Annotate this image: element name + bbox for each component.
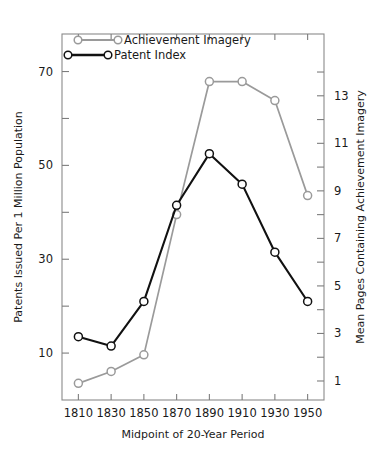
y2-tick-label: 1 (334, 374, 341, 388)
x-tick-label: 1910 (227, 406, 256, 420)
data-point-marker (140, 297, 148, 305)
legend-marker-end (114, 36, 122, 44)
data-point-marker (238, 78, 246, 86)
series-achievement-imagery (74, 78, 311, 388)
x-tick-label: 1830 (96, 406, 125, 420)
y2-tick-label: 7 (334, 231, 341, 245)
series-line (78, 82, 307, 384)
data-point-marker (107, 342, 115, 350)
data-point-marker (205, 150, 213, 158)
y2-tick-label: 5 (334, 279, 341, 293)
y2-axis-ticks (317, 72, 324, 381)
legend-marker-start (64, 51, 72, 59)
x-tick-label: 1870 (162, 406, 191, 420)
data-point-marker (74, 379, 82, 387)
data-point-marker (271, 97, 279, 105)
x-axis-tick-labels: 18101830185018701890191019301950 (64, 406, 323, 420)
data-point-marker (304, 297, 312, 305)
data-point-marker (107, 367, 115, 375)
x-axis-title: Midpoint of 20-Year Period (122, 428, 265, 441)
series-patent-index (74, 150, 311, 350)
legend-marker-end (104, 51, 112, 59)
y-tick-label: 50 (38, 158, 53, 172)
data-point-marker (74, 333, 82, 341)
y2-axis-title: Mean Pages Containing Achievement Imager… (354, 90, 367, 344)
chart-figure: 18101830185018701890191019301950 7050301… (0, 0, 377, 455)
x-tick-label: 1850 (129, 406, 158, 420)
legend-entry: Patent Index (64, 48, 186, 62)
data-point-marker (304, 192, 312, 200)
y-tick-label: 70 (38, 65, 53, 79)
x-tick-label: 1930 (260, 406, 289, 420)
y2-tick-label: 3 (334, 326, 341, 340)
y-axis-title: Patents Issued Per 1 Million Population (12, 111, 25, 323)
y-tick-label: 30 (38, 252, 53, 266)
y2-tick-label: 11 (334, 136, 349, 150)
x-tick-label: 1890 (195, 406, 224, 420)
y-tick-label: 10 (38, 346, 53, 360)
data-point-marker (271, 248, 279, 256)
series-layer (74, 78, 311, 388)
data-point-marker (173, 201, 181, 209)
legend-label: Patent Index (114, 48, 186, 62)
y-axis-ticks (62, 72, 69, 354)
x-tick-label: 1810 (64, 406, 93, 420)
plot-frame (62, 34, 324, 400)
y-axis-tick-labels: 70503010 (38, 65, 53, 361)
data-point-marker (238, 180, 246, 188)
legend-marker-start (74, 36, 82, 44)
y2-tick-label: 13 (334, 89, 349, 103)
legend-label: Achievement Imagery (124, 33, 251, 47)
x-tick-label: 1950 (293, 406, 322, 420)
legend-entry: Achievement Imagery (74, 33, 251, 47)
chart-legend: Achievement ImageryPatent Index (64, 33, 251, 62)
y2-axis-tick-labels: 131197531 (334, 89, 349, 388)
data-point-marker (140, 351, 148, 359)
y2-tick-label: 9 (334, 184, 341, 198)
data-point-marker (205, 78, 213, 86)
line-chart: 18101830185018701890191019301950 7050301… (0, 0, 377, 455)
